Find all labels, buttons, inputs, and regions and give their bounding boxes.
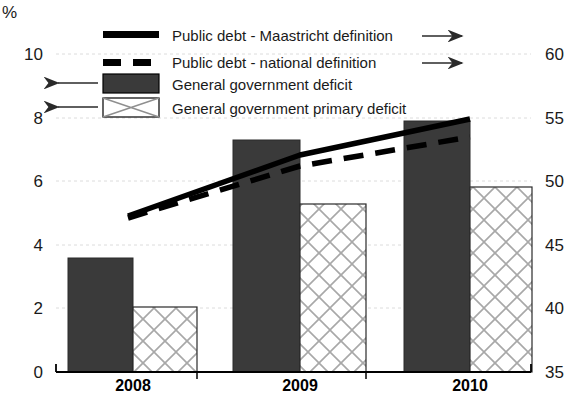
left-tick-6: 6 xyxy=(34,172,43,191)
category-label-2008: 2008 xyxy=(115,377,151,394)
left-tick-4: 4 xyxy=(34,236,43,255)
bar-deficit-2010 xyxy=(404,121,470,372)
left-tick-2: 2 xyxy=(34,299,43,318)
category-label-2010: 2010 xyxy=(452,377,488,394)
right-tick-35: 35 xyxy=(545,363,564,382)
left-tick-8: 8 xyxy=(34,109,43,128)
right-tick-45: 45 xyxy=(545,236,564,255)
solid-line-swatch-icon xyxy=(103,31,159,38)
bar-primary-deficit-2010 xyxy=(470,187,532,372)
right-tick-50: 50 xyxy=(545,172,564,191)
left-tick-10: 10 xyxy=(24,45,43,64)
right-tick-55: 55 xyxy=(545,109,564,128)
dashed-line-swatch-icon-b xyxy=(133,59,151,66)
unit-label: % xyxy=(2,3,17,22)
right-tick-60: 60 xyxy=(545,45,564,64)
left-tick-0: 0 xyxy=(34,363,43,382)
legend-label-primary-deficit: General government primary deficit xyxy=(172,100,407,117)
dark-box-swatch-icon xyxy=(103,74,159,93)
bar-deficit-2008 xyxy=(68,258,133,372)
chart-container: % 10 8 6 4 2 0 60 55 50 45 40 35 xyxy=(0,0,587,395)
category-label-2009: 2009 xyxy=(282,377,318,394)
legend-label-maastricht: Public debt - Maastricht definition xyxy=(172,27,393,44)
economic-indicators-chart: % 10 8 6 4 2 0 60 55 50 45 40 35 xyxy=(0,0,587,395)
legend-label-national: Public debt - national definition xyxy=(172,54,376,71)
bar-primary-deficit-2009 xyxy=(300,204,366,372)
legend-item-primary-deficit[interactable]: General government primary deficit xyxy=(58,98,407,117)
bar-primary-deficit-2008 xyxy=(133,307,197,372)
legend-label-deficit: General government deficit xyxy=(172,76,353,93)
right-tick-40: 40 xyxy=(545,299,564,318)
dashed-line-swatch-icon-a xyxy=(103,59,121,66)
